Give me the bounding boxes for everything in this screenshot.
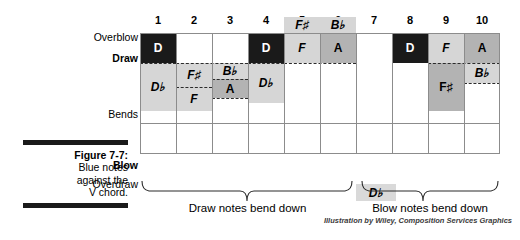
cell-blow-9 bbox=[428, 123, 464, 153]
cell-draw-6: A bbox=[320, 33, 356, 63]
dash-draw-bends-1 bbox=[140, 63, 176, 64]
cell-overblow-5: F♯ bbox=[284, 17, 320, 33]
cell-bends-10: B♭ bbox=[464, 63, 500, 83]
cell-bends-1: D♭ bbox=[140, 63, 176, 111]
grid-vline-3 bbox=[248, 33, 249, 153]
dash-bends-split-3 bbox=[212, 79, 248, 80]
row-label-draw: Draw bbox=[112, 52, 138, 64]
grid-vline-5 bbox=[320, 33, 321, 153]
brace-group bbox=[140, 181, 500, 203]
grid-bottom-line bbox=[140, 153, 500, 154]
cell-draw-5: F bbox=[284, 33, 320, 63]
row-label-overdraw: Overdraw bbox=[92, 178, 138, 190]
grid-vline-1 bbox=[176, 33, 177, 153]
grid-vline-7 bbox=[392, 33, 393, 153]
dash-draw-bends-4 bbox=[248, 63, 284, 64]
overblow-row: F♯ B♭ bbox=[140, 17, 500, 33]
dash-bends-split-10 bbox=[464, 83, 500, 84]
cell-draw-8: D bbox=[392, 33, 428, 63]
dash-bends-split-2 bbox=[176, 87, 212, 88]
cell-bends-3-upper: B♭ bbox=[212, 63, 248, 79]
cell-draw-3 bbox=[212, 33, 248, 63]
cell-bends-2-upper: F♯ bbox=[176, 63, 212, 87]
cell-blow-7 bbox=[356, 123, 392, 153]
cell-draw-10: A bbox=[464, 33, 500, 63]
grid-vline-6 bbox=[356, 33, 357, 153]
figure-container: Figure 7-7: Blue notes against the V cho… bbox=[0, 0, 520, 240]
row-label-column: Overblow Draw Bends Blow Overdraw bbox=[0, 0, 138, 200]
brace-label-draw: Draw notes bend down bbox=[140, 202, 355, 214]
cell-bends-2-lower: F bbox=[176, 87, 212, 111]
grid-vline-9 bbox=[464, 33, 465, 153]
cell-draw-9: F bbox=[428, 33, 464, 63]
grid-vline-8 bbox=[428, 33, 429, 153]
cell-bends-4: D♭ bbox=[248, 63, 284, 103]
grid-vline-4 bbox=[284, 33, 285, 153]
attribution-text: Illustration by Wiley, Composition Servi… bbox=[0, 216, 512, 225]
cell-blow-3 bbox=[212, 123, 248, 153]
cell-blow-5 bbox=[284, 123, 320, 153]
grid-vline-10 bbox=[499, 33, 500, 153]
cell-bends-3-lower: A bbox=[212, 79, 248, 98]
caption-rule-bottom bbox=[23, 203, 128, 208]
brace-label-blow: Blow notes bend down bbox=[360, 202, 500, 214]
dash-bends-bottom-3 bbox=[212, 98, 248, 99]
row-label-overblow: Overblow bbox=[94, 31, 138, 43]
cell-draw-4: D bbox=[248, 33, 284, 63]
row-label-blow: Blow bbox=[113, 159, 138, 171]
cell-draw-7 bbox=[356, 33, 392, 63]
brace-blow bbox=[362, 181, 498, 201]
harmonica-grid: F♯ B♭ D D F A D F A D♭ F♯ F B♭ A D♭ bbox=[140, 33, 500, 181]
brace-draw bbox=[142, 181, 352, 201]
cell-draw-1: D bbox=[140, 33, 176, 63]
cell-draw-2 bbox=[176, 33, 212, 63]
cell-bends-9: F♯ bbox=[428, 63, 464, 111]
cell-blow-1 bbox=[140, 123, 176, 153]
grid-vline-2 bbox=[212, 33, 213, 153]
cell-blow-6 bbox=[320, 123, 356, 153]
row-label-bends: Bends bbox=[108, 108, 138, 120]
cell-blow-8 bbox=[392, 123, 428, 153]
cell-blow-4 bbox=[248, 123, 284, 153]
cell-blow-2 bbox=[176, 123, 212, 153]
grid-vline-0 bbox=[140, 33, 141, 153]
cell-overblow-6: B♭ bbox=[320, 17, 356, 33]
cell-blow-10 bbox=[464, 123, 500, 153]
